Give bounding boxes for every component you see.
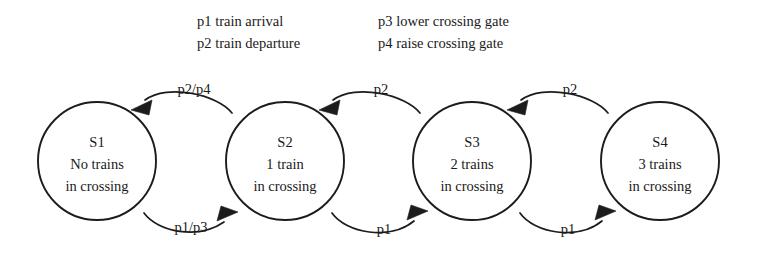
transition-label-p1-p3: p1/p3 [174, 219, 207, 235]
transition-label-p2-b: p2 [563, 81, 578, 97]
state-machine-diagram: p1 train arrival p2 train departure p3 l… [0, 0, 758, 261]
transitions-layer: p2/p4 p1/p3 p2 p1 [131, 81, 616, 237]
transition-s1-to-s2: p1/p3 [144, 206, 238, 235]
state-node-s1: S1 No trains in crossing [38, 102, 156, 220]
state-id-s2: S2 [277, 134, 292, 150]
state-node-s3: S3 2 trains in crossing [413, 102, 531, 220]
legend-entry-p1: p1 train arrival [197, 13, 283, 29]
legend-column-right: p3 lower crossing gate p4 raise crossing… [378, 13, 509, 51]
state-id-s4: S4 [652, 134, 668, 150]
arrowhead-into-s3 [407, 205, 428, 220]
transition-arc-s2-s3 [332, 213, 414, 233]
transition-label-p2-p4: p2/p4 [177, 81, 211, 97]
state-line2-s4: in crossing [628, 178, 691, 194]
arrowhead-into-s4 [595, 205, 616, 220]
states-layer: S1 No trains in crossing S2 1 train in c… [38, 102, 719, 220]
arrowhead-into-s2-top [319, 100, 340, 115]
state-line1-s1: No trains [70, 156, 124, 172]
state-line2-s1: in crossing [65, 178, 128, 194]
state-id-s1: S1 [89, 134, 104, 150]
state-node-s2: S2 1 train in crossing [226, 102, 344, 220]
transition-label-p1-a: p1 [377, 221, 392, 237]
transition-s3-to-s4: p1 [520, 205, 616, 237]
legend-column-left: p1 train arrival p2 train departure [197, 13, 300, 51]
transition-s2-to-s3: p1 [332, 205, 428, 237]
state-line1-s2: 1 train [266, 156, 304, 172]
legend-entry-p3: p3 lower crossing gate [378, 13, 509, 29]
state-line2-s2: in crossing [253, 178, 316, 194]
state-line1-s4: 3 trains [638, 156, 681, 172]
state-line2-s3: in crossing [440, 178, 503, 194]
legend-entry-p4: p4 raise crossing gate [378, 35, 503, 51]
legend-entry-p2: p2 train departure [197, 35, 300, 51]
transition-label-p2-a: p2 [374, 81, 389, 97]
transition-s3-to-s2: p2 [319, 81, 420, 115]
transition-s4-to-s3: p2 [507, 81, 608, 115]
state-node-s4: S4 3 trains in crossing [601, 102, 719, 220]
legend: p1 train arrival p2 train departure p3 l… [197, 13, 509, 51]
transition-s2-to-s1: p2/p4 [131, 81, 232, 115]
state-machine-canvas: p1 train arrival p2 train departure p3 l… [0, 0, 758, 261]
arrowhead-into-s3-top [507, 100, 528, 115]
arrowhead-into-s1 [131, 100, 152, 115]
transition-label-p1-b: p1 [561, 221, 576, 237]
arrowhead-into-s2 [217, 206, 238, 221]
state-id-s3: S3 [464, 134, 479, 150]
state-line1-s3: 2 trains [450, 156, 493, 172]
